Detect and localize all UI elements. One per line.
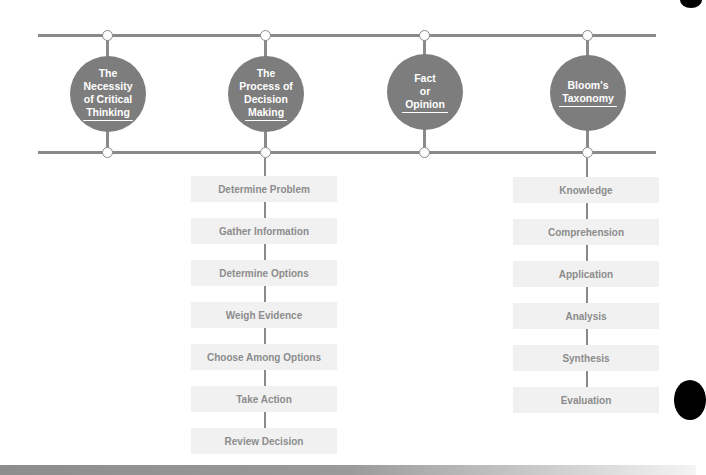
level-label: Analysis (565, 311, 606, 322)
connector (264, 412, 266, 428)
decision-step: Determine Options (191, 260, 337, 286)
topic-line: Making (245, 106, 287, 121)
bottom-rail (38, 151, 656, 154)
topic-line: Opinion (402, 98, 448, 113)
decision-step: Determine Problem (191, 176, 337, 202)
step-label: Gather Information (219, 226, 309, 237)
bottom-bar (0, 465, 696, 475)
topic-line: Process of (239, 80, 293, 93)
topic-line: Necessity (83, 80, 132, 93)
bloom-level: Knowledge (513, 177, 659, 203)
node-bottom-1 (102, 147, 113, 158)
connector (586, 287, 588, 303)
topic-line: Fact (414, 72, 436, 85)
topic-line: Thinking (83, 106, 133, 121)
node-top-1 (102, 30, 113, 41)
connector (586, 245, 588, 261)
connector (264, 286, 266, 302)
node-bottom-2 (260, 147, 271, 158)
topic-line: or (420, 85, 431, 98)
connector (586, 329, 588, 345)
top-rail (38, 34, 656, 37)
topic-blooms-taxonomy: Bloom's Taxonomy (550, 55, 626, 131)
topic-line: Taxonomy (559, 92, 617, 107)
topic-line: of Critical (84, 93, 132, 106)
topic-decision-making: The Process of Decision Making (228, 56, 304, 132)
level-label: Evaluation (561, 395, 612, 406)
bloom-level: Comprehension (513, 219, 659, 245)
decision-step: Choose Among Options (191, 344, 337, 370)
bloom-level: Application (513, 261, 659, 287)
bloom-level: Synthesis (513, 345, 659, 371)
node-top-2 (260, 30, 271, 41)
level-label: Comprehension (548, 227, 624, 238)
topic-line: Decision (244, 93, 288, 106)
step-label: Choose Among Options (207, 352, 321, 363)
topic-line: The (99, 67, 118, 80)
topic-fact-or-opinion: Fact or Opinion (387, 54, 463, 130)
node-top-4 (582, 30, 593, 41)
level-label: Knowledge (559, 185, 612, 196)
connector (586, 203, 588, 219)
decision-step: Review Decision (191, 428, 337, 454)
bloom-level: Evaluation (513, 387, 659, 413)
decision-step: Take Action (191, 386, 337, 412)
connector (264, 370, 266, 386)
decision-step: Weigh Evidence (191, 302, 337, 328)
topic-line: The (257, 67, 276, 80)
topic-line: Bloom's (567, 79, 608, 92)
node-top-3 (419, 30, 430, 41)
step-label: Determine Options (219, 268, 308, 279)
edge-dot-right (674, 380, 706, 420)
bloom-level: Analysis (513, 303, 659, 329)
level-label: Application (559, 269, 613, 280)
step-label: Determine Problem (218, 184, 310, 195)
level-label: Synthesis (562, 353, 609, 364)
step-label: Weigh Evidence (226, 310, 303, 321)
node-bottom-4 (582, 147, 593, 158)
connector (264, 328, 266, 344)
connector (264, 158, 266, 176)
decision-step: Gather Information (191, 218, 337, 244)
connector (586, 371, 588, 387)
connector (264, 244, 266, 260)
topic-critical-thinking: The Necessity of Critical Thinking (70, 56, 146, 132)
edge-dot-top (680, 0, 702, 8)
step-label: Review Decision (225, 436, 304, 447)
node-bottom-3 (419, 147, 430, 158)
connector (586, 158, 588, 177)
connector (264, 202, 266, 218)
step-label: Take Action (236, 394, 292, 405)
